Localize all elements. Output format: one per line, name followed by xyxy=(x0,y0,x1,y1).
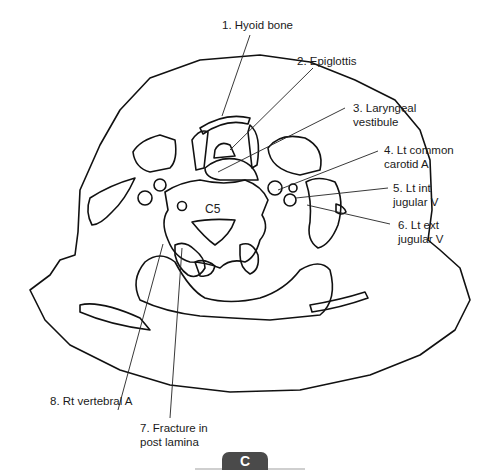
label-epiglottis: 2. Epiglottis xyxy=(297,54,356,68)
label-hyoid-bone: 1. Hyoid bone xyxy=(222,18,293,32)
lt-int-jugular xyxy=(284,194,296,206)
label-laryngeal-vestibule: 3. Laryngeal vestibule xyxy=(353,101,416,129)
label-lt-common-carotid: 4. Lt common carotid A xyxy=(384,143,454,171)
lt-common-carotid xyxy=(268,181,282,195)
vertebral-body xyxy=(164,180,268,268)
label-lt-int-jugular: 5. Lt int jugular V xyxy=(393,181,438,209)
panel-label-tab: C xyxy=(222,452,268,470)
label-lt-ext-jugular: 6. Lt ext jugular V xyxy=(398,218,443,246)
laryngeal-vestibule-shape xyxy=(205,159,258,180)
label-rt-vertebral-artery: 8. Rt vertebral A xyxy=(50,394,132,408)
epiglottis-shape xyxy=(214,143,235,158)
vertebra-c5-label: C5 xyxy=(205,202,220,216)
label-fracture-post-lamina: 7. Fracture in post lamina xyxy=(140,421,208,449)
spinal-canal xyxy=(192,219,235,245)
